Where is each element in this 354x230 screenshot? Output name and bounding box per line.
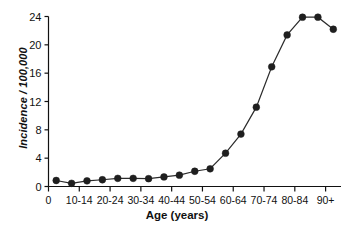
data-point — [161, 174, 168, 181]
data-point — [238, 131, 245, 138]
y-tick-label-group: 04812162024 — [29, 11, 41, 193]
data-point — [176, 172, 183, 179]
data-point — [284, 32, 291, 39]
x-axis-title: Age (years) — [0, 209, 354, 221]
data-point — [53, 177, 60, 184]
data-point — [207, 165, 214, 172]
x-tick-label: 50-54 — [189, 194, 216, 206]
data-point — [299, 14, 306, 21]
data-point — [130, 175, 137, 182]
y-tick-label: 8 — [35, 124, 41, 136]
data-point — [114, 175, 121, 182]
y-tick-label: 16 — [29, 67, 41, 79]
data-point — [99, 176, 106, 183]
x-tick-mark-group — [49, 187, 326, 192]
y-tick-label: 4 — [35, 152, 41, 164]
incidence-by-age-chart: Incidence / 100,000 04812162024 010-1420… — [0, 0, 354, 230]
x-tick-label: 0 — [46, 194, 52, 206]
data-point — [84, 177, 91, 184]
x-tick-label: 30-34 — [127, 194, 154, 206]
data-point — [68, 180, 75, 187]
data-point — [222, 150, 229, 157]
x-tick-label: 20-24 — [97, 194, 124, 206]
data-point — [145, 175, 152, 182]
series-markers — [53, 14, 337, 187]
plot-area: 04812162024 010-1420-2430-3440-4450-5460… — [0, 0, 354, 230]
x-tick-label: 70-74 — [251, 194, 278, 206]
x-tick-label: 40-44 — [158, 194, 185, 206]
data-point — [315, 14, 322, 21]
x-tick-label: 60-64 — [220, 194, 247, 206]
x-tick-label-group: 010-1420-2430-3440-4450-5460-6470-7480-8… — [46, 194, 335, 206]
y-tick-label: 0 — [35, 181, 41, 193]
y-tick-label: 20 — [29, 39, 41, 51]
data-point — [253, 104, 260, 111]
data-point — [330, 26, 337, 33]
y-tick-label: 12 — [29, 96, 41, 108]
data-point — [268, 63, 275, 70]
x-tick-label: 10-14 — [66, 194, 93, 206]
x-tick-label: 90+ — [317, 194, 335, 206]
x-tick-label: 80-84 — [281, 194, 308, 206]
series-line — [56, 17, 333, 183]
data-point — [191, 168, 198, 175]
y-tick-label: 24 — [29, 11, 41, 23]
